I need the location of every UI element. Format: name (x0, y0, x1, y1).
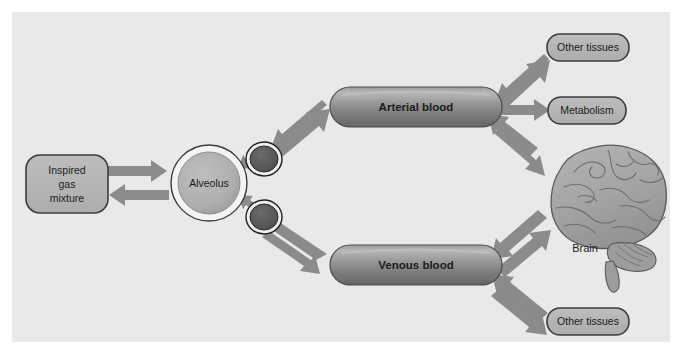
inspired-gas-label-line-2: gas (59, 178, 76, 190)
other-tissues-bottom-label: Other tissues (557, 315, 619, 327)
node-inspired-gas-mixture[interactable]: Inspired gas mixture (26, 155, 108, 213)
brain-label: Brain (572, 242, 598, 254)
node-venous-blood[interactable]: Venous blood (330, 245, 502, 285)
inspired-gas-label-line-1: Inspired (48, 164, 86, 176)
diagram-canvas: Inspired gas mixture Alveolus (12, 12, 670, 342)
capillary-lower-lumen (250, 204, 278, 230)
node-arterial-blood[interactable]: Arterial blood (330, 87, 502, 127)
node-alveolus[interactable]: Alveolus (171, 145, 247, 221)
metabolism-label: Metabolism (560, 104, 614, 116)
other-tissues-top-label: Other tissues (557, 41, 619, 53)
inspired-gas-label-line-3: mixture (50, 192, 85, 204)
node-other-tissues-top[interactable]: Other tissues (547, 34, 629, 61)
arterial-blood-label: Arterial blood (379, 101, 454, 113)
node-capillary-upper[interactable] (246, 142, 282, 176)
node-metabolism[interactable]: Metabolism (548, 97, 626, 124)
node-other-tissues-bottom[interactable]: Other tissues (547, 308, 629, 335)
alveolus-label: Alveolus (189, 177, 229, 189)
venous-blood-label: Venous blood (378, 259, 453, 271)
node-brain[interactable]: Brain (551, 145, 666, 292)
diagram-panel: Inspired gas mixture Alveolus (12, 12, 670, 342)
arrow-alveolus-to-gas (109, 184, 169, 206)
brain-cerebrum-shape (551, 145, 666, 248)
capillary-upper-lumen (250, 146, 278, 172)
figure-root: Inspired gas mixture Alveolus (0, 0, 685, 355)
node-capillary-lower[interactable] (246, 200, 282, 234)
arrow-gas-to-alveolus (108, 160, 167, 182)
